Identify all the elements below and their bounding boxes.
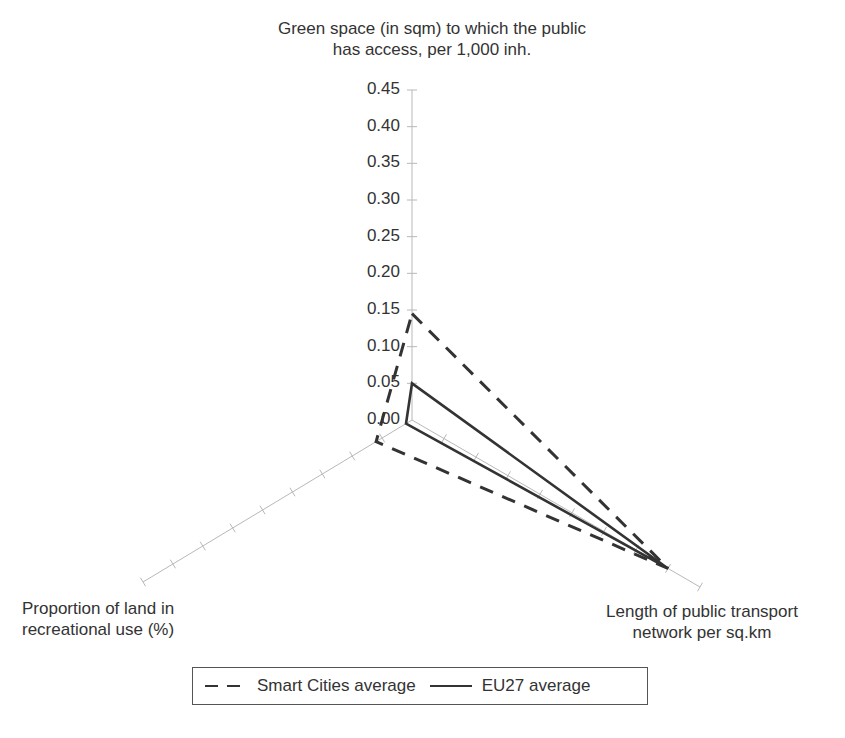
axis-title-green-space: Green space (in sqm) to which the public… <box>222 18 642 60</box>
axis-tick-mark <box>260 506 265 515</box>
axis-tick-mark <box>350 452 355 461</box>
axis-title-line: Green space (in sqm) to which the public <box>222 18 642 39</box>
radar-series <box>376 314 668 569</box>
axis-title-line: recreational use (%) <box>22 619 232 640</box>
axis-title-line: Proportion of land in <box>22 598 232 619</box>
radial-tick-label: 0.45 <box>350 79 400 99</box>
axis-title-line: Length of public transport <box>572 601 832 622</box>
radial-tick-label: 0.10 <box>350 336 400 356</box>
radial-tick-label: 0.20 <box>350 262 400 282</box>
radial-tick-label: 0.25 <box>350 226 400 246</box>
solid-line-swatch-icon <box>430 685 472 688</box>
axis-title-line: network per sq.km <box>572 622 832 643</box>
radial-tick-label: 0.30 <box>350 189 400 209</box>
axis-title-line: has access, per 1,000 inh. <box>222 39 642 60</box>
axis-title-transport-network: Length of public transport network per s… <box>572 601 832 643</box>
axis-tick-mark <box>380 434 385 443</box>
axis-tick-mark <box>230 524 235 533</box>
axis-tick-mark <box>170 560 175 569</box>
radar-axis-line <box>143 420 412 582</box>
radial-tick-label: 0.35 <box>350 152 400 172</box>
axis-title-recreational-land: Proportion of land in recreational use (… <box>22 598 232 640</box>
series-smart-cities <box>376 314 668 569</box>
radial-tick-label: 0.05 <box>350 372 400 392</box>
axis-tick-mark <box>140 578 145 587</box>
radar-axes <box>140 90 702 591</box>
dashed-line-swatch-icon <box>205 685 247 687</box>
radial-tick-label: 0.00 <box>350 409 400 429</box>
axis-tick-mark <box>697 583 702 592</box>
series-eu27 <box>406 383 668 568</box>
legend-item-eu27: EU27 average <box>430 676 591 696</box>
chart-legend: Smart Cities average EU27 average <box>192 667 648 705</box>
legend-label: EU27 average <box>482 676 591 696</box>
radial-tick-label: 0.40 <box>350 116 400 136</box>
legend-label: Smart Cities average <box>257 676 416 696</box>
axis-tick-mark <box>320 470 325 479</box>
axis-tick-mark <box>200 542 205 551</box>
legend-item-smart-cities: Smart Cities average <box>205 676 416 696</box>
radial-tick-label: 0.15 <box>350 299 400 319</box>
axis-tick-mark <box>441 434 446 443</box>
axis-tick-mark <box>290 488 295 497</box>
